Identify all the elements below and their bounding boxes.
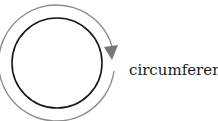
circumference-arrow-arc bbox=[0, 5, 114, 121]
inner-circle bbox=[12, 18, 102, 108]
circumference-label: circumference bbox=[129, 61, 218, 79]
arrowhead-icon bbox=[104, 45, 118, 60]
